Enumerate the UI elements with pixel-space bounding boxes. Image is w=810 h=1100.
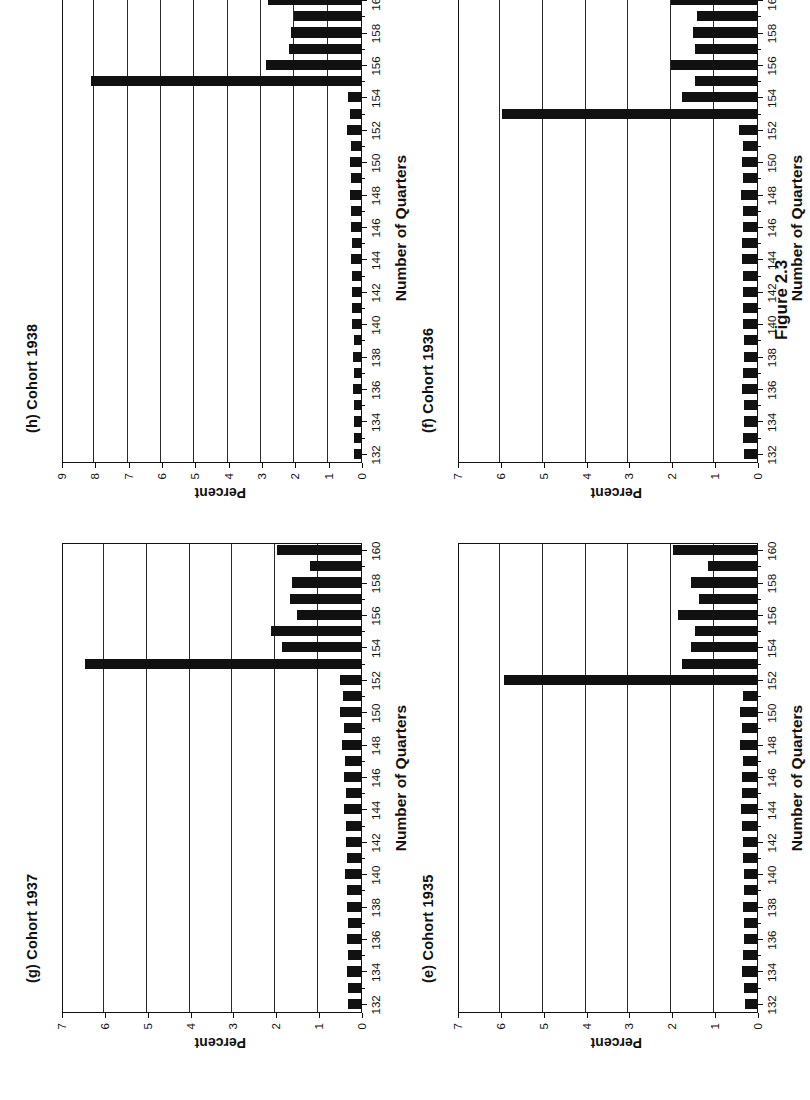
y-axis-tick-label: 3 [256,473,268,515]
x-axis-tick-mark [758,615,763,616]
x-axis-tick-mark [362,389,367,390]
x-axis-tick-mark [362,340,365,341]
x-axis-tick-mark [758,114,761,115]
x-axis-tick-mark [362,874,367,875]
x-axis-tick-mark [758,955,761,956]
y-axis-tick-label: 1 [709,473,721,515]
y-axis-tick-mark [501,1013,502,1018]
x-axis-tick-mark [758,130,763,131]
panel-title: (g) Cohort 1937 [24,874,40,983]
y-axis-tick-label: 0 [752,1023,764,1065]
x-axis-tick-mark [362,988,365,989]
x-axis-tick-label: 132 [766,445,778,464]
bar [350,109,361,119]
y-axis-tick-mark [758,1013,759,1018]
bar [294,11,361,21]
x-axis-tick-label: 148 [370,186,382,205]
x-axis-tick-mark [362,162,367,163]
y-axis-tick-mark [276,1013,277,1018]
y-axis-tick-mark [195,463,196,468]
bar [697,11,757,21]
x-axis-tick-mark [362,583,367,584]
y-axis-tick-mark [129,463,130,468]
bar [744,934,757,944]
y-axis-tick-mark [162,463,163,468]
y-axis-tick-label: 6 [156,473,168,515]
x-axis-tick-mark [758,389,763,390]
bar [310,561,361,571]
x-axis-tick-label: 138 [370,348,382,367]
bar [693,28,757,38]
x-axis-tick-label: 148 [766,186,778,205]
y-axis-tick-mark [229,463,230,468]
y-axis-tick-mark [758,463,759,468]
bar [354,335,361,345]
x-axis-tick-label: 138 [370,898,382,917]
x-axis-tick-mark [362,324,367,325]
x-axis-tick-mark [362,438,365,439]
bar [742,384,757,394]
x-axis-tick-mark [758,599,761,600]
y-axis-tick-label: 0 [356,1023,368,1065]
bar [85,659,361,669]
bar [289,44,361,54]
bar [348,999,361,1009]
x-axis-tick-mark [758,631,761,632]
x-axis-tick-mark [362,195,367,196]
x-axis-tick-label: 160 [766,542,778,561]
y-axis-tick-label: 1 [313,1023,325,1065]
x-axis-tick-label: 150 [766,704,778,723]
x-axis-tick-label: 158 [370,24,382,43]
x-axis-tick-label: 158 [766,574,778,593]
plot-area [458,0,758,463]
bar [744,400,757,410]
x-axis-label: Number of Quarters [788,0,806,463]
x-axis-tick-label: 138 [766,348,778,367]
x-axis-label: Number of Quarters [392,543,410,1013]
bar [348,950,361,960]
bar [282,642,361,652]
plot-area [458,543,758,1013]
bar [742,238,757,248]
x-axis-tick-mark [758,243,761,244]
bar [345,869,361,879]
gridline [93,0,94,462]
bar [743,902,757,912]
bar [744,352,757,362]
y-axis-tick-mark [95,463,96,468]
bar [353,352,361,362]
x-axis-tick-label: 138 [766,898,778,917]
y-axis-tick-label: 8 [89,473,101,515]
x-axis-tick-label: 152 [370,121,382,140]
x-axis-tick-mark [758,712,763,713]
x-axis-tick-label: 146 [370,768,382,787]
y-axis-tick-mark [105,1013,106,1018]
x-axis-tick-label: 142 [766,283,778,302]
x-axis-tick-mark [362,454,367,455]
x-axis-tick-mark [758,97,763,98]
x-axis-tick-mark [758,826,761,827]
y-axis-tick-label: 1 [709,1023,721,1065]
x-axis-tick-label: 132 [766,995,778,1014]
x-axis-tick-mark [362,826,365,827]
y-axis-tick-label: 6 [99,1023,111,1065]
y-axis-tick-label: 0 [356,473,368,515]
x-axis-tick-mark [758,421,763,422]
bar [347,902,361,912]
gridline [499,0,500,462]
bar [352,303,361,313]
bar [745,999,757,1009]
bar [743,756,757,766]
bar [344,804,361,814]
y-axis-tick-label: 0 [752,473,764,515]
x-axis-tick-mark [362,292,367,293]
gridline [146,544,147,1012]
x-axis-tick-mark [362,939,367,940]
x-axis-tick-mark [758,340,761,341]
y-axis-tick-label: 2 [289,473,301,515]
x-axis-tick-mark [758,49,761,50]
x-axis-tick-label: 152 [766,121,778,140]
y-axis-tick-label: 6 [495,1023,507,1065]
bar [695,76,757,86]
bar [671,0,757,5]
